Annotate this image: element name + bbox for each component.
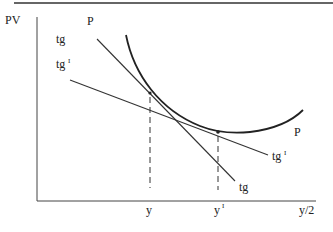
tangent-line-tg: [97, 39, 235, 181]
curve-label-p-top: P: [87, 14, 94, 28]
tangent-prime-label-top: tg: [56, 57, 65, 71]
tangency-point-y-prime: [216, 130, 220, 134]
curve-p: [126, 35, 303, 133]
tangent-prime-label-bottom: tg: [272, 149, 281, 163]
tangency-point-y: [148, 91, 151, 94]
tangent-label-tg-bottom: tg: [239, 180, 248, 194]
tangent-prime-mark-top: I: [68, 57, 71, 65]
tangent-label-tg-top: tg: [56, 32, 65, 46]
tangent-prime-mark-bottom: I: [284, 149, 287, 157]
tangent-line-tg-prime: [70, 80, 268, 155]
x-axis-label: y/2: [299, 203, 314, 217]
curve-label-p-right: P: [294, 125, 301, 139]
tick-label-y-prime: y: [214, 203, 220, 217]
tick-prime-mark: I: [222, 202, 225, 210]
diagram-canvas: PV y/2 P P tg tg tg I tg I y y I: [0, 0, 333, 232]
tick-label-y: y: [146, 203, 152, 217]
y-axis-label: PV: [5, 13, 21, 27]
